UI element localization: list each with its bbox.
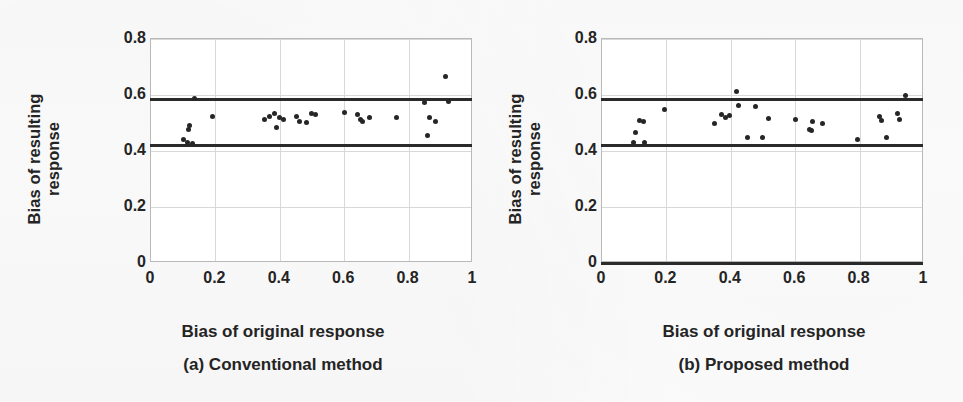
data-point bbox=[394, 115, 399, 120]
data-point bbox=[641, 119, 646, 124]
gridline-vertical bbox=[280, 39, 281, 261]
data-point bbox=[187, 123, 192, 128]
x-tick-label: 0.2 bbox=[640, 269, 690, 287]
y-axis-label-b: Bias of resulting response bbox=[499, 44, 551, 274]
x-axis-label-b: Bias of original response bbox=[569, 322, 959, 342]
data-point bbox=[433, 119, 438, 124]
reference-line-lower-limit bbox=[150, 144, 472, 147]
gridline-horizontal bbox=[602, 95, 922, 96]
gridline-vertical bbox=[215, 39, 216, 261]
data-point bbox=[633, 130, 638, 135]
x-tick-labels-b: 00.20.40.60.81 bbox=[601, 269, 923, 291]
gridline-vertical bbox=[795, 39, 796, 261]
gridline-vertical bbox=[860, 39, 861, 261]
data-point bbox=[360, 119, 365, 124]
data-point bbox=[281, 117, 286, 122]
data-point bbox=[274, 125, 279, 130]
gridline-vertical bbox=[731, 39, 732, 261]
x-tick-label: 0.6 bbox=[318, 269, 368, 287]
data-point bbox=[734, 89, 739, 94]
data-point bbox=[820, 121, 825, 126]
data-point bbox=[294, 114, 299, 119]
x-tick-label: 0.2 bbox=[189, 269, 239, 287]
data-point bbox=[895, 111, 900, 116]
x-tick-label: 0 bbox=[576, 269, 626, 287]
data-point bbox=[210, 114, 215, 119]
data-point bbox=[190, 141, 195, 146]
y-tick-label: 0.2 bbox=[551, 197, 597, 215]
panel-conventional-method: Bias of resulting response 00.20.40.60.8… bbox=[0, 0, 481, 402]
data-point bbox=[642, 140, 647, 145]
x-tick-label: 0.4 bbox=[705, 269, 755, 287]
x-tick-labels-a: 00.20.40.60.81 bbox=[150, 269, 472, 291]
gridline-horizontal bbox=[602, 207, 922, 208]
caption-a: (a) Conventional method bbox=[88, 355, 478, 375]
x-tick-label: 0.4 bbox=[254, 269, 304, 287]
x-tick-label: 0.6 bbox=[769, 269, 819, 287]
data-point bbox=[446, 99, 451, 104]
gridline-vertical bbox=[409, 39, 410, 261]
figure-page: Bias of resulting response 00.20.40.60.8… bbox=[0, 0, 963, 402]
y-tick-label: 0.4 bbox=[100, 141, 146, 159]
data-point bbox=[736, 103, 741, 108]
data-point bbox=[745, 135, 750, 140]
data-point bbox=[422, 100, 427, 105]
data-point bbox=[809, 128, 814, 133]
data-point bbox=[185, 140, 190, 145]
data-point bbox=[272, 111, 277, 116]
data-point bbox=[727, 113, 732, 118]
data-point bbox=[897, 117, 902, 122]
y-tick-labels-a: 00.20.40.60.8 bbox=[94, 38, 146, 262]
gridline-horizontal bbox=[602, 151, 922, 152]
data-point bbox=[903, 93, 908, 98]
y-tick-labels-b: 00.20.40.60.8 bbox=[545, 38, 597, 262]
caption-b: (b) Proposed method bbox=[569, 355, 959, 375]
data-point bbox=[367, 115, 372, 120]
data-point bbox=[297, 119, 302, 124]
x-tick-label: 0.8 bbox=[834, 269, 884, 287]
y-tick-label: 0.6 bbox=[100, 85, 146, 103]
gridline-horizontal bbox=[151, 95, 471, 96]
data-point bbox=[192, 96, 197, 101]
data-point bbox=[427, 115, 432, 120]
y-tick-label: 0.2 bbox=[100, 197, 146, 215]
data-point bbox=[793, 117, 798, 122]
data-point bbox=[753, 104, 758, 109]
data-point bbox=[810, 119, 815, 124]
y-tick-label: 0.4 bbox=[551, 141, 597, 159]
data-point bbox=[313, 112, 318, 117]
data-point bbox=[443, 74, 448, 79]
data-point bbox=[342, 110, 347, 115]
gridline-vertical bbox=[344, 39, 345, 261]
gridline-horizontal bbox=[151, 151, 471, 152]
panel-proposed-method: Bias of resulting response 00.20.40.60.8… bbox=[481, 0, 962, 402]
data-point bbox=[304, 120, 309, 125]
reference-line-lower-limit bbox=[601, 144, 923, 147]
data-point bbox=[425, 133, 430, 138]
data-point bbox=[712, 121, 717, 126]
x-tick-label: 1 bbox=[898, 269, 948, 287]
data-point bbox=[884, 135, 889, 140]
x-tick-label: 0.8 bbox=[383, 269, 433, 287]
plot-area-a bbox=[150, 38, 472, 262]
y-tick-label: 0.6 bbox=[551, 85, 597, 103]
data-point bbox=[262, 117, 267, 122]
plot-area-b bbox=[601, 38, 923, 262]
gridline-horizontal bbox=[151, 207, 471, 208]
reference-line-upper-limit bbox=[601, 98, 923, 101]
gridline-horizontal bbox=[151, 39, 471, 40]
data-point bbox=[760, 135, 765, 140]
x-tick-label: 0 bbox=[125, 269, 175, 287]
y-axis-label-a: Bias of resulting response bbox=[18, 44, 70, 274]
gridline-vertical bbox=[666, 39, 667, 261]
gridline-horizontal bbox=[602, 39, 922, 40]
reference-line-baseline bbox=[601, 262, 923, 265]
data-point bbox=[766, 116, 771, 121]
y-tick-label: 0.8 bbox=[551, 29, 597, 47]
x-axis-label-a: Bias of original response bbox=[88, 322, 478, 342]
y-tick-label: 0.8 bbox=[100, 29, 146, 47]
data-point bbox=[879, 118, 884, 123]
